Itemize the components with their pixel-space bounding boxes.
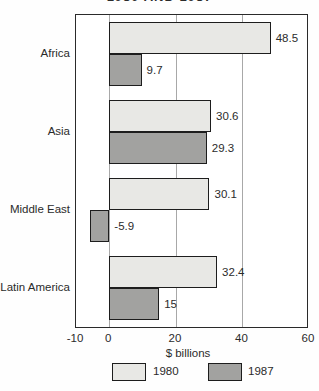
value-label-asia-1987: 29.3 xyxy=(212,142,234,154)
category-label-asia: Asia xyxy=(48,125,70,137)
value-label-middle-east-1980: 30.1 xyxy=(215,188,237,200)
value-label-latin-america-1987: 15 xyxy=(164,298,177,310)
bar-latin-america-1987 xyxy=(109,288,159,320)
legend-swatch-1980 xyxy=(112,363,146,381)
bar-middle-east-1987 xyxy=(90,210,110,242)
category-label-latin-america: Latin America xyxy=(0,281,70,293)
bar-latin-america-1980 xyxy=(109,256,217,288)
value-label-latin-america-1980: 32.4 xyxy=(222,266,244,278)
value-label-asia-1980: 30.6 xyxy=(216,110,238,122)
value-label-middle-east-1987: -5.9 xyxy=(114,220,134,232)
legend: 1980 1987 xyxy=(0,362,319,384)
category-label-africa: Africa xyxy=(41,47,70,59)
bar-chart: 1980 AND 1987 48.59.730.629.330.1-5.932.… xyxy=(0,0,319,391)
legend-swatch-1987 xyxy=(208,363,242,381)
bar-asia-1980 xyxy=(109,100,211,132)
value-label-africa-1987: 9.7 xyxy=(147,64,163,76)
plot-area: 48.59.730.629.330.1-5.932.415 xyxy=(75,14,308,328)
legend-label-1987: 1987 xyxy=(248,365,274,377)
category-label-middle-east: Middle East xyxy=(10,203,70,215)
bar-middle-east-1980 xyxy=(109,178,209,210)
x-axis-label: $ billions xyxy=(75,347,301,359)
x-tick-40: 40 xyxy=(235,332,248,344)
bar-asia-1987 xyxy=(109,132,207,164)
x-tick-60: 60 xyxy=(302,332,315,344)
gridline-40 xyxy=(242,15,243,327)
x-tick--10: -10 xyxy=(67,332,84,344)
x-tick-0: 0 xyxy=(105,332,111,344)
bar-africa-1987 xyxy=(109,54,141,86)
chart-title: 1980 AND 1987 xyxy=(0,0,319,4)
legend-label-1980: 1980 xyxy=(153,365,179,377)
bar-africa-1980 xyxy=(109,22,270,54)
value-label-africa-1980: 48.5 xyxy=(276,32,298,44)
x-tick-20: 20 xyxy=(168,332,181,344)
